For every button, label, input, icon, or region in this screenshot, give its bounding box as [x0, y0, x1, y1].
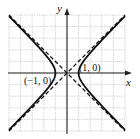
y-axis-arrow-icon: [65, 8, 70, 15]
y-axis-label: y: [56, 2, 62, 14]
vertex-left-label: (−1, 0): [24, 75, 51, 87]
hyperbola-plot: y x (1, 0) (−1, 0): [0, 0, 140, 139]
x-axis-arrow-icon: [125, 71, 132, 76]
x-axis-label: x: [125, 76, 131, 88]
vertex-right-label: (1, 0): [79, 62, 101, 74]
